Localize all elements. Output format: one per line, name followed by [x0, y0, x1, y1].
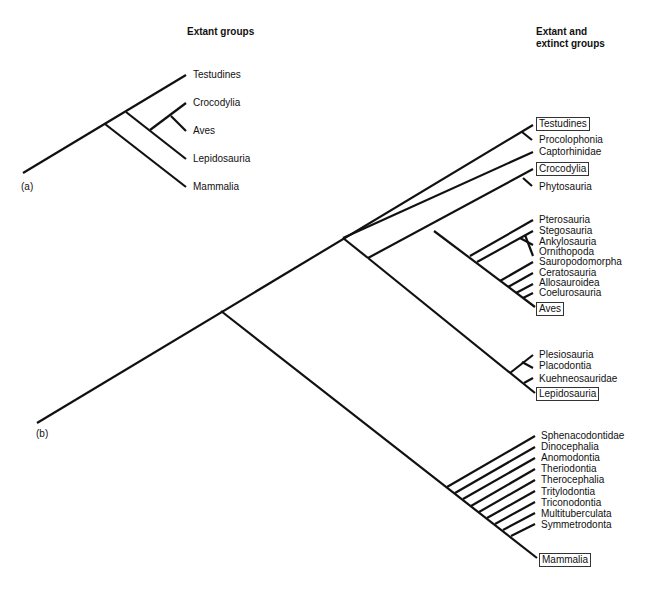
taxon-a-lepidosauria: Lepidosauria [193, 153, 250, 164]
taxon-b-captorhinidae: Captorhinidae [539, 146, 601, 157]
taxon-b-kuehneosauridae: Kuehneosauridae [539, 373, 617, 384]
taxon-b-theriodontia: Theriodontia [541, 463, 597, 474]
tree-b-branches [37, 125, 537, 558]
taxon-b-procolophonia: Procolophonia [539, 134, 603, 145]
header-extant-extinct-line1: Extant and [536, 26, 587, 38]
panel-label-a: (a) [21, 181, 33, 192]
taxon-b-pterosauria: Pterosauria [539, 214, 590, 225]
taxon-b-stegosauria: Stegosauria [539, 225, 592, 236]
taxon-b-testudines: Testudines [536, 117, 590, 131]
taxon-b-placodontia: Placodontia [539, 360, 591, 371]
taxon-b-sauropodomorpha: Sauropodomorpha [539, 256, 622, 267]
taxon-b-coelurosauria: Coelurosauria [539, 287, 601, 298]
tree-a-branches [23, 75, 186, 187]
taxon-b-therocephalia: Therocephalia [541, 474, 604, 485]
taxon-a-crocodylia: Crocodylia [193, 97, 240, 108]
taxon-b-multituberculata: Multituberculata [541, 508, 612, 519]
taxon-b-crocodylia: Crocodylia [536, 162, 589, 176]
taxon-b-phytosauria: Phytosauria [539, 181, 592, 192]
taxon-b-tritylodontia: Tritylodontia [541, 486, 595, 497]
taxon-b-symmetrodonta: Symmetrodonta [541, 519, 612, 530]
taxon-a-aves: Aves [193, 125, 215, 136]
taxon-b-anomodontia: Anomodontia [541, 452, 600, 463]
taxon-b-aves: Aves [536, 302, 564, 316]
header-extant-extinct-line2: extinct groups [536, 38, 605, 50]
taxon-b-plesiosauria: Plesiosauria [539, 349, 593, 360]
header-extant-groups: Extant groups [187, 26, 254, 38]
panel-label-b: (b) [36, 428, 48, 439]
taxon-b-triconodontia: Triconodontia [541, 497, 601, 508]
taxon-b-lepidosauria: Lepidosauria [536, 387, 599, 401]
taxon-b-sphenacodontidae: Sphenacodontidae [541, 430, 624, 441]
taxon-b-dinocephalia: Dinocephalia [541, 441, 599, 452]
taxon-a-mammalia: Mammalia [193, 181, 239, 192]
taxon-a-testudines: Testudines [193, 69, 241, 80]
taxon-b-mammalia: Mammalia [539, 553, 591, 567]
